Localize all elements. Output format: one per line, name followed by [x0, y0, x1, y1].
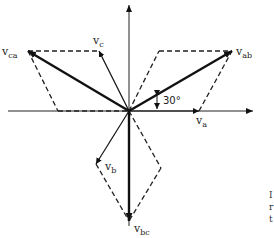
label-vab: vab: [235, 45, 252, 60]
label-vc: vc: [92, 34, 104, 49]
labels: va vb vc vab vbc vca: [1, 34, 252, 237]
phase-vectors: [96, 51, 199, 164]
label-vb: vb: [104, 160, 116, 175]
cut-off-caption: I r t: [269, 190, 274, 224]
dashed-bc-right-upper: [129, 111, 161, 168]
dashed-bc-right-lower: [129, 168, 161, 221]
caption-fragment-1: I: [269, 190, 273, 200]
phasor-diagram: 30° va vb vc vab vbc vca I r t: [0, 0, 274, 238]
caption-fragment-3: t: [269, 214, 273, 224]
angle-label: 30°: [163, 95, 181, 106]
axes: [8, 5, 253, 226]
label-vca: vca: [1, 45, 18, 60]
label-va: va: [195, 114, 207, 129]
angle-indicator: 30°: [157, 95, 181, 109]
vector-vb: [96, 111, 129, 164]
label-vbc: vbc: [133, 222, 150, 237]
line-vectors: [28, 51, 232, 221]
caption-fragment-2: r: [269, 202, 274, 212]
